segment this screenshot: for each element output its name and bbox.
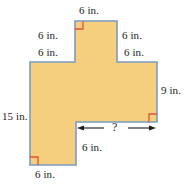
label-left-vertical: 15 in. [2, 111, 28, 122]
label-upper-right-vertical: 6 in. [122, 30, 142, 41]
label-right-vertical: 9 in. [161, 85, 181, 96]
label-upper-right-horizontal: 6 in. [124, 47, 144, 58]
label-upper-left-vertical: 6 in. [38, 30, 58, 41]
geometry-figure: 6 in. 6 in. 6 in. 6 in. 6 in. 9 in. 15 i… [0, 0, 185, 185]
label-unknown-length: ? [112, 121, 117, 133]
label-bottom-edge: 6 in. [35, 169, 55, 180]
label-upper-left-horizontal: 6 in. [38, 47, 58, 58]
figure-drawing [0, 0, 185, 185]
label-top-edge: 6 in. [79, 5, 99, 16]
label-notch-vertical: 6 in. [82, 142, 102, 153]
